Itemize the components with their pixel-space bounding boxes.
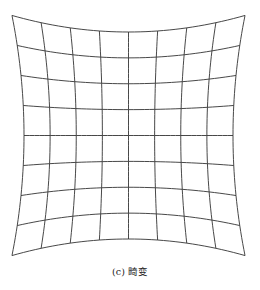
figure-caption: (c) 畸变 [0, 264, 260, 278]
grid-horizontal-line [12, 239, 245, 256]
grid-vertical-line [233, 15, 245, 255]
grid-vertical-line [12, 15, 24, 255]
distorted-grid-figure [0, 0, 260, 260]
grid-horizontal-line [12, 15, 245, 32]
